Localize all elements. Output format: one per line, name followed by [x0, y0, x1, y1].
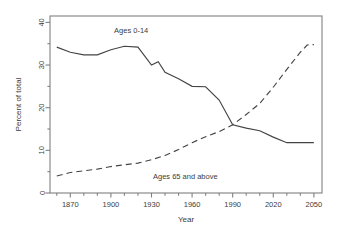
chart-figure: 0102030401870190019301960199020202050Yea…: [0, 0, 337, 242]
y-axis-tick-label: 40: [38, 18, 47, 26]
series-label-ages-0-14: Ages 0-14: [114, 26, 148, 35]
y-axis-tick-label: 30: [38, 61, 47, 69]
x-axis-tick-label: 2050: [306, 200, 323, 209]
x-axis-tick-label: 1960: [184, 200, 201, 209]
y-axis-title: Percent of total: [14, 77, 23, 131]
series-line-ages-65-and-above: [57, 45, 314, 176]
age-distribution-line-chart: 0102030401870190019301960199020202050Yea…: [0, 0, 337, 242]
x-axis-tick-label: 2020: [265, 200, 282, 209]
x-axis-tick-label: 1930: [143, 200, 160, 209]
x-axis-tick-label: 1870: [62, 200, 79, 209]
x-axis-tick-label: 1900: [103, 200, 120, 209]
y-axis-tick-label: 20: [38, 104, 47, 112]
plot-frame: [50, 16, 322, 193]
x-axis-tick-label: 1990: [224, 200, 241, 209]
series-label-ages-65-and-above: Ages 65 and above: [153, 172, 218, 181]
series-line-ages-0-14: [57, 46, 314, 142]
y-axis-tick-label: 0: [38, 191, 47, 195]
x-axis-title: Year: [178, 215, 195, 224]
y-axis-tick-label: 10: [38, 146, 47, 154]
